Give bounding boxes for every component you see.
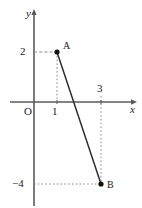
coordinate-plane-figure: 2 −4 1 3 O y x A B [0,0,142,208]
point-a-label: A [63,41,70,51]
origin-label: O [24,106,32,117]
point-b-marker [98,181,103,186]
x-tick-label-1: 1 [52,106,58,117]
y-axis-arrow-icon [31,9,36,15]
y-axis-name-label: y [26,8,31,19]
point-a-marker [54,49,59,54]
x-tick-label-3: 3 [97,83,103,94]
y-axis [31,9,36,206]
y-tick-label-neg4: −4 [12,178,24,189]
point-b-label: B [107,180,114,190]
x-axis-name-label: x [130,104,135,115]
y-tick-label-2: 2 [20,46,26,57]
segment-ab [57,52,101,184]
